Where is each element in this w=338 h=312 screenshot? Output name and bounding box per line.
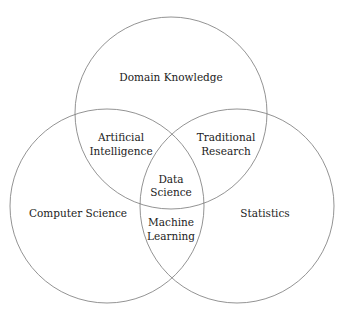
label-traditional-research-2: Research xyxy=(201,145,251,157)
label-data-science-2: Science xyxy=(150,186,192,198)
venn-diagram: Domain Knowledge Computer Science Statis… xyxy=(0,0,338,312)
label-data-science-1: Data xyxy=(158,173,183,185)
label-statistics: Statistics xyxy=(240,207,290,219)
label-machine-learning-1: Machine xyxy=(148,216,194,228)
label-computer-science: Computer Science xyxy=(29,207,127,219)
label-machine-learning-2: Learning xyxy=(147,230,195,242)
label-artificial-intelligence-1: Artificial xyxy=(97,131,145,143)
label-artificial-intelligence-2: Intelligence xyxy=(89,145,152,157)
label-domain-knowledge: Domain Knowledge xyxy=(119,71,223,83)
label-traditional-research-1: Traditional xyxy=(197,131,256,143)
